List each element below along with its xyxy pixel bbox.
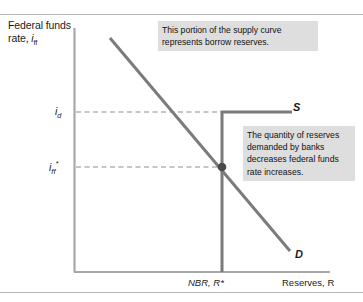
y-axis-title-line1: Federal funds xyxy=(8,19,71,31)
y-tick-discount-sub: d xyxy=(57,111,61,120)
y-tick-equilibrium-sup: * xyxy=(55,159,58,168)
y-axis-title: Federal fundsrate, iff xyxy=(8,19,71,48)
y-axis-title-symbol-subscript: ff xyxy=(34,38,38,47)
demand-annotation-note: The quantity of reserves demanded by ban… xyxy=(243,126,355,181)
equilibrium-point-dot xyxy=(218,163,227,172)
supply-annotation-note: This portion of the supply curve represe… xyxy=(158,21,318,51)
demand-curve-label: D xyxy=(295,248,303,261)
x-axis-title: Reserves, R xyxy=(282,277,334,289)
supply-curve-label: S xyxy=(293,101,300,114)
figure-container: Federal fundsrate, iff Reserves, R id if… xyxy=(0,0,363,302)
x-axis-title-text: Reserves, R xyxy=(282,277,334,288)
y-axis-title-line2: rate, xyxy=(8,32,31,44)
y-tick-label-equilibrium-rate: iff* xyxy=(49,160,58,177)
x-tick-label-nbr: NBR, R* xyxy=(188,277,224,289)
x-tick-nbr-text: NBR, R* xyxy=(188,277,224,288)
y-tick-label-discount-rate: id xyxy=(55,105,61,121)
